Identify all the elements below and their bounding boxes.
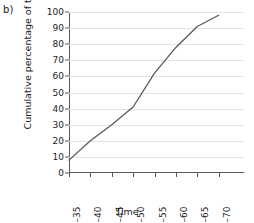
y-tick-mark (65, 140, 69, 141)
x-tick-mark (155, 173, 156, 177)
y-tick-mark (65, 156, 69, 157)
y-tick-label: 90 (53, 24, 64, 33)
y-tick-label: 10 (53, 152, 64, 161)
x-axis-title: Time (0, 206, 254, 217)
x-tick-mark (69, 173, 70, 177)
y-tick-label: 80 (53, 40, 64, 49)
x-tick-mark (197, 173, 198, 177)
y-tick-label: 20 (53, 136, 64, 145)
x-tick-mark (176, 173, 177, 177)
y-tick-mark (65, 92, 69, 93)
plot-area (69, 12, 244, 173)
y-tick-label: 30 (53, 120, 64, 129)
x-tick-mark (90, 173, 91, 177)
y-tick-mark (65, 108, 69, 109)
panel-label: b) (3, 4, 14, 15)
y-tick-mark (65, 12, 69, 13)
y-tick-mark (65, 28, 69, 29)
cumulative-percentage-line (69, 12, 244, 173)
y-tick-label: 40 (53, 104, 64, 113)
y-tick-mark (65, 60, 69, 61)
y-tick-mark (65, 76, 69, 77)
y-tick-label: 0 (58, 169, 64, 178)
y-tick-label: 60 (53, 72, 64, 81)
y-axis-tick-labels: 0102030405060708090100 (38, 12, 64, 173)
x-tick-mark (112, 173, 113, 177)
data-line (69, 15, 219, 160)
y-tick-label: 100 (47, 8, 64, 17)
y-tick-mark (65, 44, 69, 45)
y-axis-title: Cumulative percentage of time (22, 0, 33, 131)
x-tick-mark (219, 173, 220, 177)
y-tick-mark (65, 124, 69, 125)
x-tick-mark (133, 173, 134, 177)
y-tick-label: 50 (53, 88, 64, 97)
figure-panel-b: b) Cumulative percentage of time 0102030… (0, 0, 254, 223)
y-tick-label: 70 (53, 56, 64, 65)
